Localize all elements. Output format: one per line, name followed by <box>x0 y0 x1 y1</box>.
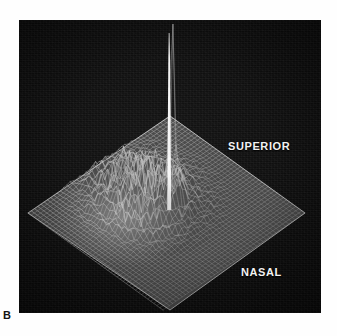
plot-plate: SUPERIOR NASAL <box>19 20 321 313</box>
figure-panel: B <box>0 0 337 336</box>
label-superior: SUPERIOR <box>228 140 290 152</box>
label-nasal: NASAL <box>241 266 282 278</box>
panel-letter: B <box>3 309 11 321</box>
